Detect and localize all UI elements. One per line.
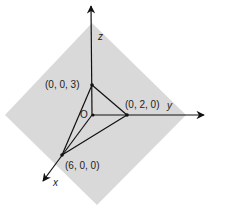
point-label-x: (6, 0, 0) <box>65 160 99 171</box>
x-axis-label: x <box>52 177 59 188</box>
point-y <box>125 113 129 117</box>
origin-label: O <box>80 109 88 120</box>
point-label-z: (0, 0, 3) <box>45 79 79 90</box>
point-z <box>90 83 94 87</box>
diagram-canvas: z y x O (0, 0, 3) (0, 2, 0) (6, 0, 0) <box>0 0 226 213</box>
z-axis-label: z <box>97 31 103 42</box>
y-axis-label: y <box>166 100 173 111</box>
origin-point <box>92 114 95 117</box>
plane-square <box>5 23 186 205</box>
point-label-y: (0, 2, 0) <box>125 99 159 110</box>
point-x <box>60 153 64 157</box>
